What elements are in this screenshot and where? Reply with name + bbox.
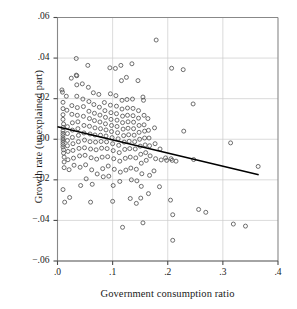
data-point xyxy=(114,94,118,98)
data-point xyxy=(94,148,98,152)
data-point xyxy=(113,66,117,70)
data-point xyxy=(67,168,71,172)
data-point xyxy=(121,121,125,125)
data-point xyxy=(90,182,94,186)
data-point xyxy=(71,156,75,160)
data-point xyxy=(81,114,85,118)
data-point xyxy=(191,102,195,106)
data-point xyxy=(78,154,82,158)
data-point xyxy=(121,225,125,229)
data-point xyxy=(115,118,119,122)
data-point xyxy=(159,158,163,162)
data-point xyxy=(157,185,161,189)
data-point xyxy=(65,132,69,136)
data-point xyxy=(118,159,122,163)
data-point xyxy=(132,133,136,137)
data-point xyxy=(121,127,125,131)
data-point xyxy=(106,155,110,159)
data-point xyxy=(75,113,79,117)
data-point xyxy=(119,63,123,67)
data-point xyxy=(256,164,260,168)
data-point xyxy=(87,124,91,128)
data-point xyxy=(125,97,129,101)
data-point xyxy=(69,76,73,80)
data-point xyxy=(204,210,208,214)
data-point xyxy=(128,197,132,201)
data-point xyxy=(152,169,156,173)
data-point xyxy=(127,133,131,137)
scatter-plot-figure: Government consumption ratio Growth rate… xyxy=(0,0,297,309)
data-point xyxy=(146,117,150,121)
data-point xyxy=(120,107,124,111)
data-point xyxy=(130,97,134,101)
x-tick-label: .1 xyxy=(100,267,126,277)
y-tick-label: −.02 xyxy=(22,173,50,183)
data-point xyxy=(87,100,91,104)
data-point xyxy=(170,66,174,70)
data-point xyxy=(75,94,79,98)
data-point xyxy=(117,151,121,155)
data-point xyxy=(197,207,201,211)
regression-line xyxy=(58,127,259,175)
data-point xyxy=(132,120,136,124)
y-tick-label: −.06 xyxy=(22,255,50,265)
data-point xyxy=(71,142,75,146)
data-point xyxy=(108,103,112,107)
data-point xyxy=(89,147,93,151)
data-point xyxy=(88,140,92,144)
data-point xyxy=(89,200,93,204)
data-point xyxy=(103,109,107,113)
data-point xyxy=(111,184,115,188)
data-point xyxy=(97,92,101,96)
data-point xyxy=(89,156,93,160)
data-point xyxy=(153,142,157,146)
data-point xyxy=(126,106,130,110)
data-point xyxy=(133,140,137,144)
data-point xyxy=(139,196,143,200)
data-point xyxy=(141,221,145,225)
data-point xyxy=(84,163,88,167)
data-point xyxy=(229,141,233,145)
data-point xyxy=(76,140,80,144)
data-point xyxy=(103,115,107,119)
data-point xyxy=(86,63,90,67)
data-point xyxy=(94,140,98,144)
data-point xyxy=(119,79,123,83)
data-point xyxy=(106,164,110,168)
data-point xyxy=(95,172,99,176)
data-point xyxy=(114,112,118,116)
data-point xyxy=(70,104,74,108)
regression-line-segment xyxy=(58,127,259,175)
x-tick-label: .4 xyxy=(265,267,291,277)
data-point xyxy=(84,177,88,181)
data-point xyxy=(101,167,105,171)
data-point xyxy=(231,222,235,226)
data-point xyxy=(174,159,178,163)
data-point xyxy=(66,149,70,153)
data-point xyxy=(61,117,65,121)
data-point xyxy=(126,120,130,124)
data-point xyxy=(108,92,112,96)
data-point xyxy=(104,128,108,132)
data-point xyxy=(79,184,83,188)
data-point xyxy=(108,66,112,70)
data-point xyxy=(136,79,140,83)
data-point xyxy=(61,188,65,192)
data-point xyxy=(169,198,173,202)
data-point xyxy=(77,146,81,150)
data-point xyxy=(100,146,104,150)
data-point xyxy=(140,172,144,176)
data-point xyxy=(92,111,96,115)
data-point xyxy=(118,170,122,174)
data-point xyxy=(98,120,102,124)
data-point xyxy=(123,147,127,151)
data-point xyxy=(143,143,147,147)
data-point xyxy=(91,91,95,95)
data-point xyxy=(154,157,158,161)
data-point xyxy=(97,105,101,109)
y-tick-label: .00 xyxy=(22,133,50,143)
data-point xyxy=(146,192,150,196)
data-point xyxy=(65,108,69,112)
data-point xyxy=(95,157,99,161)
data-point xyxy=(82,123,86,127)
